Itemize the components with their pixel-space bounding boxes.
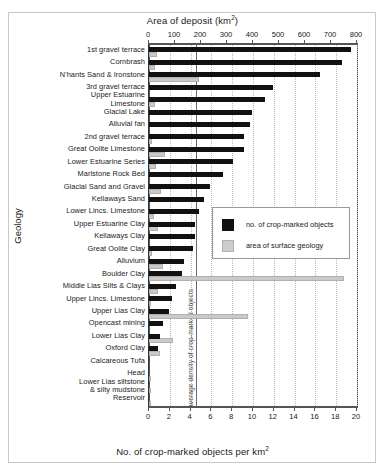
bottom-axis-title-sup: 2 — [265, 445, 269, 452]
bottom-tick-8 — [231, 407, 232, 411]
bar-density-9 — [149, 159, 233, 164]
bottom-tick-2 — [169, 407, 170, 411]
top-axis: 0100200300400500600700800 — [148, 30, 358, 44]
bottom-tick-10 — [252, 407, 253, 411]
bar-density-6 — [149, 122, 250, 127]
category-label-15: Kellaways Clay — [94, 232, 145, 240]
bar-area-11 — [149, 189, 161, 194]
bar-area-18 — [149, 276, 344, 281]
category-label-5: Glacial Lake — [104, 108, 145, 116]
legend-swatch-gray — [222, 240, 234, 252]
bar-area-9 — [149, 164, 156, 169]
category-label-14: Upper Estuarine Clay — [74, 220, 145, 228]
category-label-9: Lower Estuarine Series — [67, 158, 145, 166]
bottom-tick-20 — [356, 407, 357, 411]
bar-density-16 — [149, 246, 193, 251]
bar-area-27 — [149, 388, 151, 393]
bar-density-19 — [149, 284, 176, 289]
category-label-13: Lower Lincs. Limestone — [66, 207, 145, 215]
category-label-1: Cornbrash — [110, 58, 145, 66]
bar-area-4 — [149, 102, 155, 107]
bottom-tick-label-4: 4 — [187, 412, 191, 421]
bottom-axis: 02468101214161820 — [148, 407, 358, 423]
top-tick-label-400: 400 — [246, 30, 259, 39]
bar-density-20 — [149, 296, 172, 301]
average-density-annotation: average density of crop-marked objects — [187, 289, 194, 408]
bar-density-12 — [149, 197, 204, 202]
top-axis-title: Area of deposit (km2) — [0, 14, 385, 26]
category-label-19: Middle Lias Silts & Clays — [63, 282, 145, 290]
bar-density-14 — [149, 222, 195, 227]
bar-density-10 — [149, 172, 223, 177]
bar-area-23 — [149, 338, 173, 343]
bottom-tick-label-6: 6 — [208, 412, 212, 421]
bottom-tick-label-8: 8 — [229, 412, 233, 421]
bottom-axis-title-text: No. of crop-marked objects per km — [116, 446, 265, 457]
category-label-17: Alluvium — [117, 257, 145, 265]
category-label-18: Boulder Clay — [102, 270, 145, 278]
bar-area-0 — [149, 52, 157, 57]
bottom-tick-label-14: 14 — [289, 412, 297, 421]
bar-area-14 — [149, 226, 158, 231]
bar-area-17 — [149, 264, 163, 269]
bottom-tick-16 — [314, 407, 315, 411]
bottom-axis-title: No. of crop-marked objects per km2 — [0, 445, 385, 457]
category-label-10: Marlstone Rock Bed — [78, 170, 145, 178]
category-label-21: Upper Lias Clay — [92, 307, 145, 315]
legend-label-1: area of surface geology — [246, 241, 323, 250]
bottom-tick-12 — [273, 407, 274, 411]
bar-density-13 — [149, 209, 199, 214]
legend-swatch-black — [222, 219, 234, 231]
category-label-8: Great Oolite Limestone — [68, 145, 145, 153]
category-label-7: 2nd gravel terrace — [85, 133, 145, 141]
category-label-28: Reservoir — [113, 394, 145, 402]
category-label-16: Great Oolite Clay — [87, 245, 145, 253]
bar-area-16 — [149, 251, 152, 256]
bar-density-0 — [149, 47, 351, 52]
bottom-tick-0 — [148, 407, 149, 411]
top-tick-label-100: 100 — [168, 30, 181, 39]
bar-density-24 — [149, 346, 158, 351]
top-tick-label-700: 700 — [324, 30, 337, 39]
bar-density-3 — [149, 85, 273, 90]
category-label-27: Lower Lias siltstone & silty mudstone — [79, 378, 145, 394]
category-label-25: Calcareous Tufa — [90, 357, 145, 365]
top-tick-label-500: 500 — [272, 30, 285, 39]
bar-area-7 — [149, 139, 152, 144]
bar-density-4 — [149, 97, 265, 102]
bar-density-23 — [149, 334, 160, 339]
category-label-22: Opencast mining — [89, 319, 145, 327]
category-label-20: Upper Lincs. Limestone — [66, 295, 145, 303]
category-label-list: 1st gravel terraceCornbrashN'hants Sand … — [18, 44, 145, 407]
bar-density-17 — [149, 259, 184, 264]
category-label-2: N'hants Sand & Ironstone — [60, 71, 145, 79]
chart-legend: no. of crop-marked objectsarea of surfac… — [212, 207, 350, 259]
category-label-0: 1st gravel terrace — [87, 46, 145, 54]
gridline-20 — [357, 45, 358, 406]
top-axis-title-tail: ) — [235, 15, 238, 26]
chart-figure: Area of deposit (km2) 010020030040050060… — [0, 0, 385, 475]
bar-area-2 — [149, 77, 199, 82]
bottom-tick-label-2: 2 — [167, 412, 171, 421]
bottom-tick-6 — [210, 407, 211, 411]
bottom-tick-label-16: 16 — [310, 412, 318, 421]
bar-area-28 — [149, 401, 151, 406]
top-axis-title-text: Area of deposit (km — [147, 15, 231, 26]
category-label-4: Upper Estuarine Limestone — [91, 91, 145, 107]
bar-density-18 — [149, 271, 182, 276]
bar-density-8 — [149, 147, 244, 152]
bar-area-26 — [149, 376, 151, 381]
category-label-11: Glacial Sand and Gravel — [64, 183, 145, 191]
bar-area-13 — [149, 214, 154, 219]
bar-area-24 — [149, 351, 160, 356]
category-label-6: Alluvial fan — [109, 120, 145, 128]
top-tick-label-800: 800 — [350, 30, 363, 39]
top-tick-label-200: 200 — [194, 30, 207, 39]
bottom-tick-18 — [335, 407, 336, 411]
top-tick-label-600: 600 — [298, 30, 311, 39]
top-tick-label-300: 300 — [220, 30, 233, 39]
bar-density-2 — [149, 72, 320, 77]
bottom-axis-rule — [148, 407, 358, 408]
bottom-tick-label-20: 20 — [352, 412, 360, 421]
bottom-tick-4 — [190, 407, 191, 411]
